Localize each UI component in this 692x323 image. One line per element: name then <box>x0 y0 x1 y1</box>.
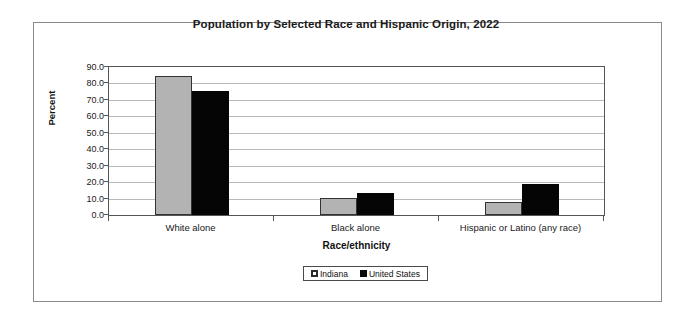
bar-indiana-white-alone <box>155 76 192 215</box>
chart-legend: IndianaUnited States <box>303 266 428 281</box>
x-axis-separator <box>438 216 439 221</box>
y-axis-tick-mark <box>104 99 108 100</box>
bar-united-states-white-alone <box>192 91 229 215</box>
y-axis-tick-label: 80.0 <box>64 78 104 88</box>
y-axis-tick-label: 30.0 <box>64 161 104 171</box>
bar-united-states-black-alone <box>357 193 394 215</box>
legend-label: Indiana <box>320 269 348 279</box>
legend-entry: Indiana <box>311 269 348 279</box>
y-axis-tick-label: 60.0 <box>64 111 104 121</box>
united-states-swatch-icon <box>360 270 367 277</box>
y-axis-tick-label: 0.0 <box>64 210 104 220</box>
y-axis-tick-label: 90.0 <box>64 62 104 72</box>
y-axis-tick-label: 70.0 <box>64 95 104 105</box>
x-axis-category-label: White alone <box>165 222 215 233</box>
y-axis-tick-mark <box>104 181 108 182</box>
y-axis-tick-mark <box>104 115 108 116</box>
x-axis-end-tick <box>603 216 604 221</box>
indiana-swatch-icon <box>311 270 318 277</box>
y-axis-tick-mark <box>104 66 108 67</box>
x-axis-end-tick <box>108 216 109 221</box>
y-axis-tick-mark <box>104 82 108 83</box>
bar-united-states-hispanic-or-latino-any-race- <box>522 184 559 215</box>
bar-indiana-black-alone <box>320 198 357 215</box>
y-axis-tick-mark <box>104 214 108 215</box>
y-axis-tick-label: 20.0 <box>64 177 104 187</box>
y-axis-tick-labels: 90.080.070.060.050.040.030.020.010.00.0 <box>62 66 104 216</box>
legend-entry: United States <box>360 269 420 279</box>
x-axis-title: Race/ethnicity <box>108 240 605 251</box>
y-axis-tick-mark <box>104 198 108 199</box>
x-axis-separator <box>273 216 274 221</box>
plot-inner <box>109 67 604 215</box>
chart-title: Population by Selected Race and Hispanic… <box>0 18 692 30</box>
y-axis-tick-mark <box>104 132 108 133</box>
x-axis-category-label: Hispanic or Latino (any race) <box>460 222 581 233</box>
x-axis-category-label: Black alone <box>331 222 380 233</box>
y-axis-title: Percent <box>46 112 57 126</box>
y-axis-tick-mark <box>104 165 108 166</box>
legend-label: United States <box>369 269 420 279</box>
plot-area <box>108 66 605 216</box>
bar-indiana-hispanic-or-latino-any-race- <box>485 202 522 215</box>
y-axis-tick-label: 50.0 <box>64 128 104 138</box>
y-axis-tick-label: 40.0 <box>64 144 104 154</box>
y-axis-tick-label: 10.0 <box>64 194 104 204</box>
y-axis-tick-mark <box>104 148 108 149</box>
